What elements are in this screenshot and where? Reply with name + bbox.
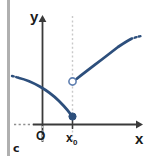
- y-axis-arrowhead: [39, 15, 47, 22]
- origin-label: O: [36, 129, 45, 143]
- right-branch-curve: [77, 39, 132, 79]
- y-axis-label: y: [30, 8, 39, 25]
- x0-tick-label: x: [66, 131, 73, 145]
- x-axis-label: x: [135, 130, 144, 147]
- corner-caption-label: c: [13, 142, 20, 155]
- left-branch-curve: [19, 78, 72, 117]
- closed-point-marker: [69, 113, 76, 120]
- function-graph-figure: y x O x 0 c: [0, 0, 148, 156]
- x0-tick-subscript: 0: [73, 138, 78, 147]
- open-point-marker: [69, 78, 76, 85]
- right-branch-dashed-tail: [131, 36, 143, 39]
- x-axis-arrowhead: [136, 121, 143, 129]
- graph-canvas: y x O x 0 c: [0, 0, 148, 156]
